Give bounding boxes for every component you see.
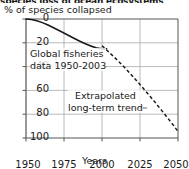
chart-figure: species loss of ocean ecosystems % of sp… — [0, 0, 189, 169]
y-tick-label-80: 80 — [36, 107, 49, 118]
chart-title-truncated: species loss of ocean ecosystems — [0, 0, 189, 3]
y-tick-label-100: 100 — [30, 131, 49, 142]
annotation-global-fisheries-line1: Global fisheries — [30, 48, 106, 60]
annotation-extrapolated-trend-line2: long-term trend — [68, 102, 143, 114]
vertical-gridlines — [64, 19, 140, 138]
annotation-global-fisheries-line2: data 1950-2003 — [30, 60, 106, 72]
y-axis-label: % of species collapsed — [4, 4, 112, 15]
annotation-extrapolated-trend-line1: Extrapolated — [68, 90, 143, 102]
y-tick-label-0: 0 — [43, 12, 49, 23]
y-tick-label-20: 20 — [36, 36, 49, 47]
plot-area: 0 20 40 60 80 100 1950 1975 2000 2025 20… — [26, 19, 178, 138]
annotation-extrapolated-trend: Extrapolated long-term trend — [68, 90, 143, 113]
x-axis-label: Years — [0, 155, 189, 166]
y-tick-label-60: 60 — [36, 83, 49, 94]
annotation-global-fisheries: Global fisheries data 1950-2003 — [30, 48, 106, 71]
